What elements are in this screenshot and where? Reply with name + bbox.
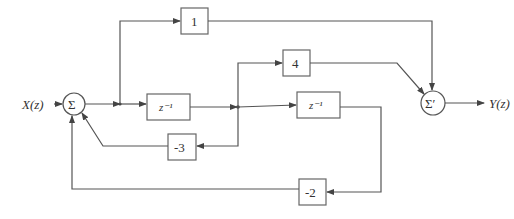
- wire-to-gain-1: [120, 21, 180, 104]
- gain-block-1-label: 1: [191, 14, 198, 29]
- summing-junction-2-symbol: Σ′: [425, 96, 436, 111]
- input-label: X(z): [21, 97, 44, 112]
- wire-gain4-to-sum2: [310, 63, 424, 94]
- gain-block-4-label: 4: [292, 56, 299, 71]
- output-label: Y(z): [489, 96, 510, 111]
- wire-to-gain-neg2: [327, 107, 381, 192]
- summing-junction-1-symbol: Σ: [68, 97, 76, 112]
- wire-gain1-to-sum2: [208, 21, 432, 90]
- gain-block-neg3-label: -3: [174, 140, 185, 155]
- delay-block-2-label: z⁻¹: [308, 99, 323, 111]
- delay-block-1-label: z⁻¹: [158, 101, 173, 113]
- gain-block-neg2-label: -2: [305, 185, 316, 200]
- wire-branch-to-delay2: [238, 105, 296, 107]
- wire-to-gain-neg3: [197, 107, 238, 146]
- wire-to-gain-4: [238, 63, 282, 107]
- block-diagram: X(z) Σ 1 z⁻¹ 4 z⁻¹ -3 -2 Σ′ Y(z): [0, 0, 514, 219]
